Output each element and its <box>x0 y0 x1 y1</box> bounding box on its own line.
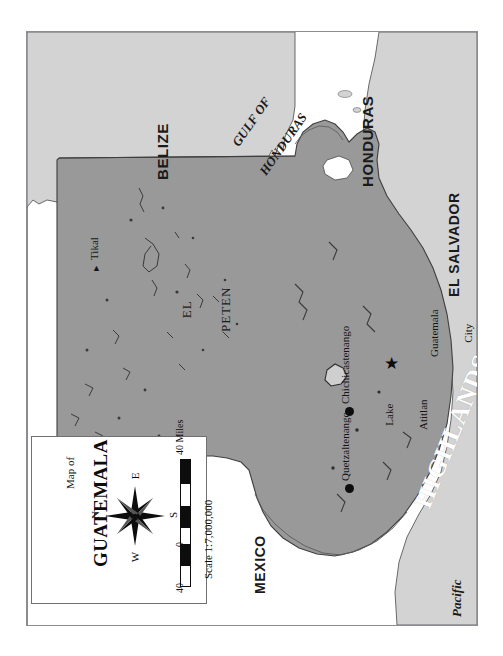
scale-label-right: 40 Miles <box>174 420 185 455</box>
scale-label-middle: 0 <box>174 542 185 547</box>
city-dot-quetzaltenango <box>345 484 354 493</box>
compass-label-west: W <box>129 552 141 562</box>
inset-title-small: Map of <box>64 457 76 489</box>
scale-bar-segment <box>181 544 190 566</box>
offshore-island <box>338 91 352 98</box>
legend-inset-box: Map of GUATEMALA N <box>31 436 207 604</box>
compass-label-east: E <box>129 473 141 480</box>
offshore-island <box>353 108 361 113</box>
scale-bar-group: 40 Miles 0 40 Scale 1:7,000,000 <box>172 459 202 589</box>
city-dot-chichicastenango <box>345 407 354 416</box>
scale-label-left: 40 <box>174 583 185 593</box>
star-icon: ★ <box>384 355 399 372</box>
scale-bar-segment <box>181 460 190 484</box>
compass-label-north: N <box>89 511 101 519</box>
scale-bar <box>180 459 191 587</box>
compass-rose: N E S W <box>104 485 166 547</box>
scale-ratio-label: Scale 1:7,000,000 <box>202 500 214 579</box>
scale-bar-segment <box>181 506 190 528</box>
compass-rose-icon <box>104 485 166 547</box>
screenshot-root: BELIZE HONDURAS EL SALVADOR MEXICO GULF … <box>0 0 503 656</box>
